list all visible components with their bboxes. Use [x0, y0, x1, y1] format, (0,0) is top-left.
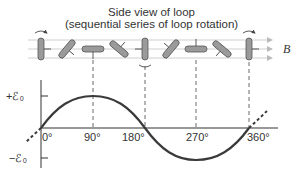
loop-225deg — [157, 35, 180, 60]
loop-315deg — [208, 40, 233, 63]
x-tick-0: 0° — [42, 131, 53, 143]
loop-270deg — [185, 39, 207, 52]
y-label-plus-emf: +ℰ₀ — [6, 90, 24, 102]
field-label-b: B — [283, 42, 291, 56]
loop-0deg — [35, 31, 51, 60]
x-tick-90: 90° — [84, 131, 101, 143]
x-tick-270: 270° — [186, 131, 209, 143]
x-tick-360: 360° — [247, 131, 270, 143]
loop-sequence — [35, 31, 259, 67]
y-label-minus-emf: −ℰ₀ — [9, 152, 27, 164]
plot-axes — [41, 80, 278, 168]
loop-45deg — [58, 39, 81, 64]
angle-guide-lines — [93, 60, 249, 128]
loop-135deg — [109, 35, 134, 58]
x-tick-180: 180° — [122, 131, 145, 143]
curve-extension — [25, 111, 267, 143]
loop-90deg — [82, 46, 104, 59]
loop-180deg — [135, 38, 151, 67]
loop-rotation-diagram: B — [0, 0, 303, 180]
loop-360deg — [243, 31, 259, 60]
